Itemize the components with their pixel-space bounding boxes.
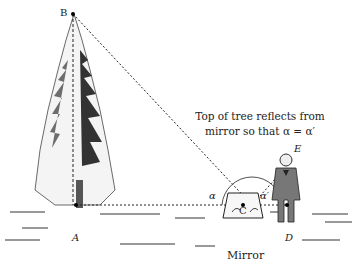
label-e: E xyxy=(294,143,301,154)
label-alpha: α xyxy=(209,190,216,201)
label-alpha-prime: α′ xyxy=(260,190,269,201)
point-b xyxy=(71,12,75,16)
point-d xyxy=(285,203,289,207)
caption-line-2: mirror so that α = α′ xyxy=(175,124,345,139)
tree-illustration xyxy=(35,14,115,208)
label-a: A xyxy=(72,232,79,243)
label-mirror: Mirror xyxy=(227,249,264,262)
label-b: B xyxy=(60,7,67,18)
point-a xyxy=(74,203,78,207)
ground-lines xyxy=(5,212,352,246)
caption-line-1: Top of tree reflects from xyxy=(175,109,345,124)
label-c: C xyxy=(239,205,247,216)
diagram-caption: Top of tree reflects from mirror so that… xyxy=(175,109,345,139)
label-d: D xyxy=(285,232,293,243)
